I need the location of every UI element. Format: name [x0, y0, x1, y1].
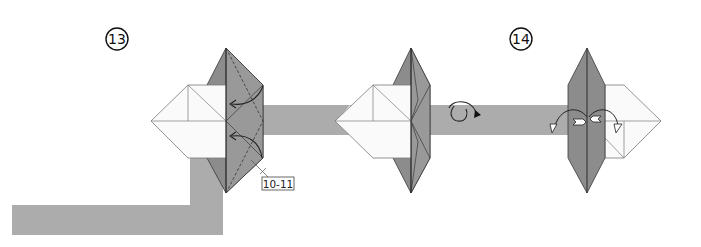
step-number-13: 13: [106, 28, 128, 50]
step-number-text: 14: [512, 31, 530, 47]
step-number-text: 13: [108, 31, 126, 47]
white-diamond: [151, 85, 226, 158]
band-l-shape: [12, 155, 223, 235]
step-number-14: 14: [510, 28, 532, 50]
connector-bands: [12, 105, 570, 235]
reference-label: 10-11: [263, 178, 294, 190]
origami-diagram: 10-11 13: [0, 0, 701, 247]
model-step-14-before: [335, 48, 430, 193]
leader-tick: [260, 168, 266, 174]
dark-flap-right: [226, 48, 263, 193]
